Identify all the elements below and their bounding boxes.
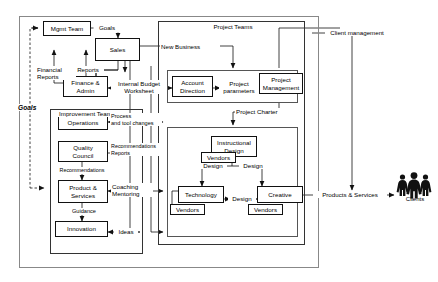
edge-label-goals-left: Goals xyxy=(17,104,45,111)
node-mgmt-team-label: Mgmt Team xyxy=(51,25,84,32)
edge-label-design-left: Design xyxy=(199,162,227,169)
edge-label-design-middle: Design xyxy=(228,195,256,202)
edge-label-goals-top: Goals xyxy=(95,24,119,31)
node-product-services[interactable]: Product & Services xyxy=(58,180,108,203)
node-technology-vendors-label: Vendors xyxy=(176,206,199,213)
node-product-services-label: Product & Services xyxy=(69,184,97,199)
edge-label-financial-reports: Financial Reports xyxy=(36,66,76,80)
node-finance-admin-label: Finance & Admin xyxy=(71,79,99,94)
edge-label-reports: Reports xyxy=(72,66,104,73)
node-creative-label: Creative xyxy=(268,191,291,198)
node-instructional-design-vendors-label: Vendors xyxy=(207,154,230,161)
node-instructional-design-vendors[interactable]: Vendors xyxy=(201,152,236,163)
edge-label-client-management: Client management xyxy=(325,29,389,36)
edge-label-project-parameters: Project parameters xyxy=(219,80,259,94)
clients-actor[interactable]: Clients xyxy=(396,171,432,205)
edge-label-coaching-mentoring: Coaching Mentoring xyxy=(111,183,153,197)
edge-label-project-charter: Project Charter xyxy=(235,108,289,115)
node-creative-vendors[interactable]: Vendors xyxy=(248,204,283,215)
project-teams-title: Project Teams xyxy=(204,23,262,30)
edge-label-new-business: New Business xyxy=(160,43,220,50)
edge-label-design-right: Design xyxy=(239,162,267,169)
edge-label-process-and-tool-changes: Process and tool changes xyxy=(110,113,162,126)
node-innovation-label: Innovation xyxy=(67,225,96,232)
edge-label-internal-budget-worksheet: Internal Budget Worksheet xyxy=(111,80,167,94)
node-quality-council[interactable]: Quality Council xyxy=(58,141,108,162)
edge-label-recommendations: Recommendations xyxy=(52,167,112,174)
node-quality-council-label: Quality Council xyxy=(73,144,94,159)
node-project-management-label: Project Management xyxy=(263,76,300,91)
node-sales[interactable]: Sales xyxy=(95,38,140,61)
node-operations[interactable]: Operations xyxy=(58,115,108,130)
people-group-icon xyxy=(396,171,432,199)
edge-label-recommendations-reports: Recommendations Reports xyxy=(110,143,164,156)
node-creative-vendors-label: Vendors xyxy=(254,206,277,213)
node-technology-vendors[interactable]: Vendors xyxy=(170,204,205,215)
edge-label-guidance: Guidance xyxy=(66,208,102,215)
node-project-management[interactable]: Project Management xyxy=(259,73,303,94)
node-innovation[interactable]: Innovation xyxy=(55,221,108,237)
node-account-direction-label: Account Direction xyxy=(180,79,205,94)
node-technology[interactable]: Technology xyxy=(178,186,224,203)
edge-label-products-and-services: Products & Services xyxy=(313,191,387,198)
clients-label: Clients xyxy=(396,196,434,203)
node-creative[interactable]: Creative xyxy=(257,186,303,203)
node-operations-label: Operations xyxy=(68,119,99,126)
node-sales-label: Sales xyxy=(110,46,126,53)
node-technology-label: Technology xyxy=(185,191,217,198)
node-mgmt-team[interactable]: Mgmt Team xyxy=(43,21,91,36)
edge-label-ideas: Ideas xyxy=(114,228,138,235)
diagram-canvas: Mgmt Team Sales Finance & Admin Operatio… xyxy=(0,0,438,282)
node-account-direction[interactable]: Account Direction xyxy=(172,76,213,97)
